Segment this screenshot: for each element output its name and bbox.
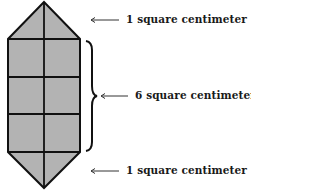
rectangle-label: 6 square centimeters [135,89,251,101]
bottom-triangle-label: 1 square centimeter [126,164,247,176]
top-triangle-label: 1 square centimeter [126,13,247,25]
arrow-top-icon [91,18,119,23]
curly-brace-icon [86,41,97,151]
arrow-middle-icon [101,94,128,99]
arrow-bottom-icon [91,169,119,174]
